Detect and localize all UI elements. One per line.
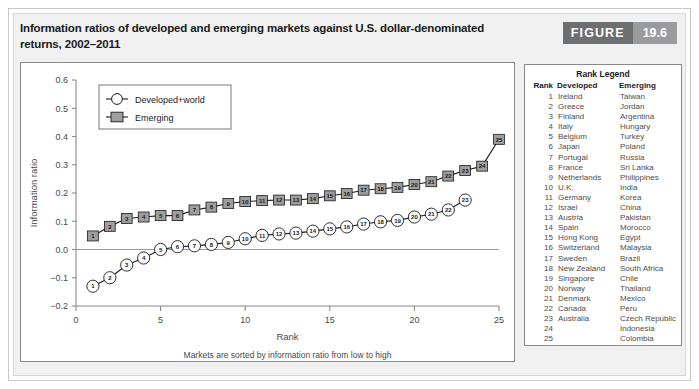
- y-tick-label: 0.6: [55, 75, 68, 85]
- developed-data-point[interactable]: 23: [459, 194, 471, 206]
- rank-legend-header-rank: Rank: [529, 81, 557, 92]
- emerging-data-point[interactable]: 14: [307, 194, 318, 204]
- rank-cell: 7: [529, 153, 557, 163]
- marker-label: 14: [310, 196, 317, 202]
- y-tick-label: 0.5: [55, 104, 68, 114]
- emerging-data-point[interactable]: 16: [341, 189, 352, 199]
- developed-data-point[interactable]: 20: [408, 211, 420, 223]
- developed-data-point[interactable]: 18: [374, 216, 386, 228]
- emerging-data-point[interactable]: 1: [88, 231, 99, 241]
- emerging-cell: Malaysia: [619, 243, 677, 253]
- rank-cell: 24: [529, 324, 557, 334]
- emerging-data-point[interactable]: 17: [358, 185, 369, 195]
- marker-label: 24: [479, 163, 486, 169]
- developed-cell: Switzerland: [557, 243, 619, 253]
- developed-data-point[interactable]: 22: [442, 204, 454, 216]
- developed-data-point[interactable]: 8: [205, 238, 217, 250]
- emerging-cell: South Africa: [619, 264, 677, 274]
- developed-cell: Australia: [557, 314, 619, 324]
- rank-legend-header-row: Rank Developed Emerging: [529, 81, 677, 92]
- emerging-series-line[interactable]: [93, 139, 499, 236]
- table-row: 8FranceSri Lanka: [529, 163, 677, 173]
- emerging-data-point[interactable]: 23: [460, 165, 471, 175]
- emerging-cell: Indonesia: [619, 324, 677, 334]
- y-tick-label: 0.3: [55, 160, 68, 170]
- developed-data-point[interactable]: 7: [188, 240, 200, 252]
- developed-data-point[interactable]: 21: [425, 208, 437, 220]
- rank-cell: 5: [529, 132, 557, 142]
- emerging-data-point[interactable]: 2: [104, 221, 115, 231]
- table-row: 12IsraelChina: [529, 203, 677, 213]
- x-tick-label: 25: [494, 315, 504, 325]
- emerging-data-point[interactable]: 21: [426, 177, 437, 187]
- developed-data-point[interactable]: 12: [273, 228, 285, 240]
- emerging-data-point[interactable]: 20: [409, 180, 420, 190]
- legend-marker-circle[interactable]: [112, 94, 123, 105]
- table-row: 2GreeceJordan: [529, 102, 677, 112]
- developed-cell: Greece: [557, 102, 619, 112]
- marker-label: 11: [259, 233, 266, 239]
- y-tick-label: 0.4: [55, 132, 68, 142]
- marker-label: 18: [377, 186, 384, 192]
- legend-marker-square[interactable]: [111, 112, 123, 122]
- developed-data-point[interactable]: 3: [121, 259, 133, 271]
- rank-cell: 21: [529, 294, 557, 304]
- rank-legend-table: Rank Developed Emerging 1IrelandTaiwan2G…: [529, 81, 677, 344]
- marker-label: 13: [293, 230, 300, 236]
- emerging-data-point[interactable]: 8: [206, 202, 217, 212]
- developed-cell: Israel: [557, 203, 619, 213]
- developed-data-point[interactable]: 5: [155, 243, 167, 255]
- rank-cell: 4: [529, 122, 557, 132]
- emerging-data-point[interactable]: 4: [138, 212, 149, 222]
- figure-19-6: Information ratios of developed and emer…: [0, 0, 699, 389]
- emerging-data-point[interactable]: 24: [477, 161, 488, 171]
- emerging-data-point[interactable]: 6: [172, 211, 183, 221]
- rank-cell: 16: [529, 243, 557, 253]
- emerging-data-point[interactable]: 5: [155, 211, 166, 221]
- marker-label: 21: [428, 179, 435, 185]
- developed-data-point[interactable]: 2: [104, 272, 116, 284]
- chart-panel: −0.2−0.10.00.10.20.30.40.50.60510152025I…: [20, 62, 515, 362]
- developed-data-point[interactable]: 15: [324, 223, 336, 235]
- emerging-data-point[interactable]: 18: [375, 184, 386, 194]
- emerging-cell: China: [619, 203, 677, 213]
- emerging-data-point[interactable]: 15: [324, 191, 335, 201]
- emerging-data-point[interactable]: 12: [274, 195, 285, 205]
- marker-label: 18: [377, 219, 384, 225]
- developed-data-point[interactable]: 16: [341, 221, 353, 233]
- developed-data-point[interactable]: 14: [307, 225, 319, 237]
- marker-label: 22: [445, 207, 452, 213]
- emerging-data-point[interactable]: 22: [443, 171, 454, 181]
- developed-cell: Hong Kong: [557, 233, 619, 243]
- emerging-data-point[interactable]: 10: [240, 196, 251, 206]
- marker-label: 17: [360, 221, 367, 227]
- developed-cell: Austria: [557, 213, 619, 223]
- developed-data-point[interactable]: 6: [171, 241, 183, 253]
- developed-cell: Singapore: [557, 274, 619, 284]
- emerging-data-point[interactable]: 3: [121, 213, 132, 223]
- table-row: 18New ZealandSouth Africa: [529, 264, 677, 274]
- emerging-data-point[interactable]: 11: [257, 196, 268, 206]
- emerging-data-point[interactable]: 13: [291, 195, 302, 205]
- developed-data-point[interactable]: 9: [222, 236, 234, 248]
- developed-data-point[interactable]: 1: [87, 280, 99, 292]
- developed-data-point[interactable]: 19: [391, 214, 403, 226]
- emerging-cell: Hungary: [619, 122, 677, 132]
- developed-data-point[interactable]: 11: [256, 229, 268, 241]
- chart-note: Markets are sorted by information ratio …: [184, 350, 392, 360]
- emerging-cell: Brazil: [619, 254, 677, 264]
- table-row: 14SpainMorocco: [529, 223, 677, 233]
- developed-data-point[interactable]: 17: [358, 218, 370, 230]
- table-row: 13AustriaPakistan: [529, 213, 677, 223]
- developed-data-point[interactable]: 4: [138, 252, 150, 264]
- legend-label-emerging: Emerging: [135, 113, 174, 123]
- table-row: 16SwitzerlandMalaysia: [529, 243, 677, 253]
- information-ratio-line-chart: −0.2−0.10.00.10.20.30.40.50.60510152025I…: [21, 63, 514, 361]
- developed-data-point[interactable]: 13: [290, 227, 302, 239]
- emerging-data-point[interactable]: 25: [494, 134, 505, 144]
- developed-data-point[interactable]: 10: [239, 233, 251, 245]
- emerging-data-point[interactable]: 9: [223, 198, 234, 208]
- emerging-data-point[interactable]: 7: [189, 205, 200, 215]
- emerging-data-point[interactable]: 19: [392, 182, 403, 192]
- rank-cell: 17: [529, 254, 557, 264]
